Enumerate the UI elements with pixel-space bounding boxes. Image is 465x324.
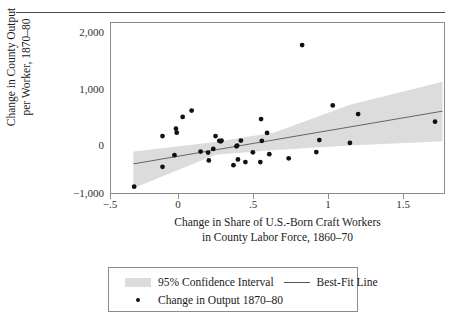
y-axis-title-line1: Change in County Output	[4, 0, 19, 162]
scatter-point	[235, 143, 240, 148]
scatter-point	[174, 130, 179, 135]
scatter-point	[258, 160, 263, 165]
scatter-point	[259, 138, 264, 143]
y-axis-title: Change in County Output per Worker, 1870…	[4, 0, 34, 162]
scatter-point	[317, 138, 322, 143]
scatter-point	[132, 184, 137, 189]
scatter-point	[160, 164, 165, 169]
scatter-point	[213, 134, 218, 139]
best-fit-line-swatch	[284, 282, 310, 283]
confidence-interval-band	[133, 82, 442, 189]
y-tick-label-0: 0	[99, 140, 105, 151]
scatter-point	[198, 149, 203, 154]
scatter-point	[206, 158, 211, 163]
x-tick-label-0: 0	[175, 198, 181, 210]
x-axis-title-line2: in County Labor Force, 1860–70	[110, 230, 445, 245]
x-tick-label-neg05: −.5	[103, 198, 117, 210]
scatter-point	[433, 119, 438, 124]
scatter-point	[243, 160, 248, 165]
legend-row-points: Change in Output 1870–80	[109, 292, 357, 308]
plot-svg	[111, 23, 444, 193]
scatter-point	[250, 150, 255, 155]
figure-container: Change in County Output per Worker, 1870…	[0, 0, 465, 324]
x-axis-title-line1: Change in Share of U.S.-Born Craft Worke…	[110, 215, 445, 230]
x-axis-title: Change in Share of U.S.-Born Craft Worke…	[110, 215, 445, 245]
y-axis-ticks: 2,000 1,000 0 −1,000	[58, 0, 104, 324]
scatter-point	[211, 147, 216, 152]
plot-area	[110, 22, 445, 194]
legend-label-best-fit-line: Best-Fit Line	[317, 276, 378, 289]
scatter-point	[174, 126, 179, 131]
y-tick-label-2000: 2,000	[79, 27, 104, 38]
scatter-point	[180, 115, 185, 120]
scatter-point	[286, 156, 291, 161]
x-tick-label-15: 1.5	[396, 198, 410, 210]
scatter-point	[356, 112, 361, 117]
scatter-point	[300, 43, 305, 48]
y-tick-label-neg1000: −1,000	[73, 188, 104, 199]
scatter-point	[206, 150, 211, 155]
legend-label-change-in-output: Change in Output 1870–80	[158, 294, 283, 307]
scatter-point	[219, 138, 224, 143]
scatter-point-swatch	[125, 298, 151, 302]
legend-label-confidence-interval: 95% Confidence Interval	[158, 276, 274, 289]
x-tick-label-05: .5	[249, 198, 257, 210]
scatter-point	[231, 163, 236, 168]
y-tick-label-1000: 1,000	[79, 84, 104, 95]
scatter-point	[265, 131, 270, 136]
scatter-point	[348, 141, 353, 146]
scatter-point	[330, 103, 335, 108]
scatter-point	[160, 134, 165, 139]
scatter-point	[189, 108, 194, 113]
y-axis-title-line2: per Worker, 1870–80	[19, 0, 34, 162]
scatter-point	[239, 138, 244, 143]
scatter-point	[314, 150, 319, 155]
chart-legend: 95% Confidence Interval Best-Fit Line Ch…	[108, 267, 358, 312]
scatter-point	[172, 153, 177, 158]
scatter-point	[259, 117, 264, 122]
dot-icon	[136, 298, 140, 302]
scatter-point	[267, 152, 272, 157]
scatter-point	[236, 157, 241, 162]
x-tick-label-1: 1	[325, 198, 331, 210]
legend-row-band-line: 95% Confidence Interval Best-Fit Line	[109, 274, 357, 290]
confidence-band-swatch	[125, 278, 151, 287]
